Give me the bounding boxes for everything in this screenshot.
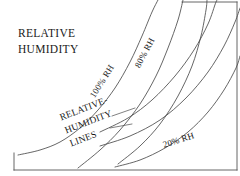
rh-curve-intermediate-curve-2 bbox=[100, 0, 218, 132]
page-title: RELATIVE HUMIDITY bbox=[18, 26, 79, 57]
relative-humidity-diagram: RELATIVE HUMIDITY 100% RH 80% RH 20% RH … bbox=[0, 0, 240, 176]
leader-line-1 bbox=[112, 108, 135, 116]
title-line-1: RELATIVE bbox=[18, 26, 79, 42]
title-line-2: HUMIDITY bbox=[18, 42, 79, 58]
rh-curve-intermediate-curve-3 bbox=[100, 8, 240, 146]
